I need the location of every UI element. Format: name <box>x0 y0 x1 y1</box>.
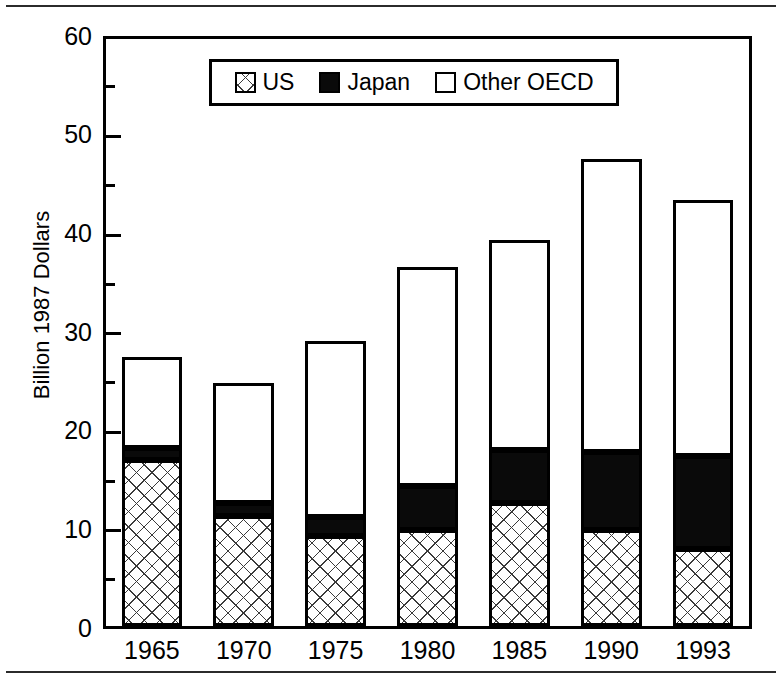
x-tick-label: 1990 <box>565 636 657 664</box>
bar-segment-other-oecd <box>122 357 183 448</box>
legend-item-other-oecd: Other OECD <box>435 71 593 94</box>
chart-figure: 60 50 40 30 20 10 0 Billion 1987 Dollars… <box>0 0 782 684</box>
x-axis-tick-labels: 1965197019751980198519901993 <box>103 636 752 670</box>
bar-1980 <box>397 39 458 626</box>
bar-segment-us <box>489 503 550 626</box>
bar-segment-japan <box>213 503 274 517</box>
y-tick-label: 10 <box>0 517 92 542</box>
y-tick-label: 50 <box>0 122 92 147</box>
bar-segment-us <box>673 549 734 626</box>
bar-segment-other-oecd <box>581 159 642 452</box>
legend-item-us: US <box>235 71 295 94</box>
bar-segment-us <box>305 536 366 626</box>
bar-segment-other-oecd <box>397 267 458 486</box>
bar-1975 <box>305 39 366 626</box>
bar-segment-us <box>213 516 274 626</box>
page-rule-bottom <box>6 671 776 673</box>
plot-area: US Japan Other OECD <box>103 36 752 629</box>
page-rule-top <box>6 5 776 7</box>
bar-segment-us <box>397 530 458 626</box>
solid-black-swatch-icon <box>319 72 340 93</box>
bar-segment-other-oecd <box>213 383 274 502</box>
bar-group <box>106 39 749 626</box>
bar-segment-other-oecd <box>489 240 550 450</box>
y-tick-label: 60 <box>0 24 92 49</box>
x-tick-label: 1975 <box>290 636 382 664</box>
bar-1985 <box>489 39 550 626</box>
legend-label: US <box>263 71 295 94</box>
bar-segment-us <box>581 530 642 626</box>
crosshatch-swatch-icon <box>235 72 256 93</box>
x-tick-label: 1965 <box>106 636 198 664</box>
empty-white-swatch-icon <box>435 72 456 93</box>
chart-legend: US Japan Other OECD <box>209 59 619 106</box>
bar-segment-japan <box>581 452 642 530</box>
y-tick-label: 0 <box>0 616 92 641</box>
x-tick-label: 1993 <box>657 636 749 664</box>
bar-segment-us <box>122 460 183 626</box>
y-axis-title: Billion 1987 Dollars <box>29 175 55 435</box>
bar-segment-other-oecd <box>305 341 366 517</box>
bar-1990 <box>581 39 642 626</box>
bar-segment-japan <box>305 517 366 536</box>
legend-label: Other OECD <box>463 71 593 94</box>
bar-1970 <box>213 39 274 626</box>
bar-1965 <box>122 39 183 626</box>
bar-segment-japan <box>122 448 183 460</box>
bar-segment-japan <box>489 450 550 503</box>
bar-segment-japan <box>673 456 734 549</box>
bar-segment-other-oecd <box>673 200 734 455</box>
bar-1993 <box>673 39 734 626</box>
x-tick-label: 1980 <box>382 636 474 664</box>
legend-label: Japan <box>347 71 410 94</box>
x-tick-label: 1970 <box>198 636 290 664</box>
bar-segment-japan <box>397 486 458 530</box>
x-tick-label: 1985 <box>473 636 565 664</box>
legend-item-japan: Japan <box>319 71 410 94</box>
